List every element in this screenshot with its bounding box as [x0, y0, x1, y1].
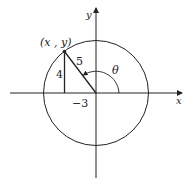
angle-label: θ [112, 64, 119, 77]
y-axis-label: y [85, 9, 92, 20]
point-dot [63, 50, 67, 54]
horizontal-leg-label: −3 [72, 97, 88, 110]
vertical-leg-label: 4 [56, 68, 63, 81]
point-label: (x , y) [40, 36, 72, 49]
x-axis-label: x [176, 95, 182, 106]
diagram-canvas: (x , y) 5 4 −3 θ x y [0, 0, 188, 182]
radius-label: 5 [76, 55, 83, 68]
